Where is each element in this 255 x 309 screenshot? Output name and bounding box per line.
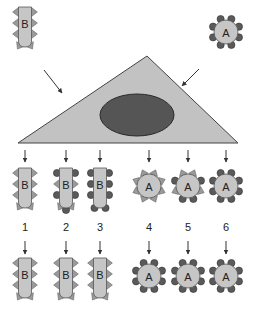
- spike-glycoprotein: [54, 180, 60, 189]
- spike-glycoprotein: [13, 281, 19, 290]
- spike-glycoprotein: [32, 191, 38, 200]
- diagram-canvas: BAB1BB2BB3BA4AA5AA6A: [0, 0, 255, 309]
- phenotypic-mixing-diagram: BAB1BB2BB3BA4AA5AA6A: [0, 0, 255, 309]
- spike-glycoprotein: [88, 259, 94, 268]
- virion-label: A: [145, 181, 153, 193]
- passage-virion-5: A: [171, 259, 204, 292]
- spike-glycoprotein: [54, 259, 60, 268]
- virion-label: A: [222, 181, 230, 193]
- progeny-virion-5: A: [171, 170, 204, 203]
- virion-label: A: [184, 181, 192, 193]
- spike-glycoprotein: [32, 180, 38, 189]
- source-virion-a: A: [209, 15, 242, 48]
- spike-glycoprotein: [73, 180, 79, 189]
- passage-virion-3: B: [88, 258, 113, 300]
- passage-virion-2: B: [54, 258, 79, 300]
- spike-glycoprotein: [13, 19, 19, 28]
- progeny-number-1: 1: [22, 221, 28, 233]
- spike-glycoprotein: [32, 169, 38, 178]
- progeny-number-6: 6: [223, 221, 229, 233]
- virion-label: A: [145, 271, 153, 283]
- spike-glycoprotein: [13, 191, 19, 200]
- spike-glycoprotein: [54, 270, 60, 279]
- progeny-virion-6: A: [209, 169, 242, 202]
- virion-label: A: [184, 271, 192, 283]
- spike-glycoprotein: [32, 259, 38, 268]
- virion-label: B: [21, 179, 28, 191]
- spike-glycoprotein: [32, 19, 38, 28]
- infection-arrow-a: [182, 69, 199, 86]
- host-cell: [18, 56, 238, 143]
- progeny-number-4: 4: [146, 221, 152, 233]
- spike-glycoprotein: [73, 259, 79, 268]
- progeny-virion-4: A: [133, 170, 165, 202]
- virion-label: B: [96, 179, 103, 191]
- spike-glycoprotein: [13, 180, 19, 189]
- spike-glycoprotein: [107, 281, 113, 290]
- infection-arrow-b: [44, 70, 62, 93]
- source-virion-b: B: [13, 7, 38, 49]
- spike-glycoprotein: [13, 8, 19, 17]
- nucleus: [100, 94, 174, 136]
- spike-glycoprotein: [107, 270, 113, 279]
- virion-label: B: [21, 269, 28, 281]
- spike-glycoprotein: [73, 281, 79, 290]
- passage-virion-1: B: [13, 258, 38, 300]
- spike-glycoprotein: [13, 259, 19, 268]
- progeny-number-3: 3: [97, 221, 103, 233]
- virion-label: A: [222, 271, 230, 283]
- spike-glycoprotein: [73, 270, 79, 279]
- spike-glycoprotein: [88, 270, 94, 279]
- progeny-number-2: 2: [63, 221, 69, 233]
- progeny-number-5: 5: [185, 221, 191, 233]
- spike-glycoprotein: [107, 259, 113, 268]
- spike-glycoprotein: [13, 30, 19, 39]
- progeny-virion-2: B: [53, 168, 78, 214]
- spike-glycoprotein: [13, 169, 19, 178]
- spike-glycoprotein: [32, 281, 38, 290]
- spike-glycoprotein: [54, 281, 60, 290]
- virion-label: B: [96, 269, 103, 281]
- progeny-virion-1: B: [13, 168, 38, 210]
- progeny-virion-3: B: [87, 168, 112, 212]
- passage-virion-6: A: [209, 259, 242, 292]
- spike-glycoprotein: [32, 30, 38, 39]
- spike-glycoprotein: [32, 8, 38, 17]
- spike-glycoprotein: [32, 270, 38, 279]
- passage-virion-4: A: [132, 259, 165, 292]
- virion-label: B: [62, 269, 69, 281]
- spike-glycoprotein: [88, 281, 94, 290]
- virion-label: B: [62, 179, 69, 191]
- virion-label: A: [222, 27, 230, 39]
- virion-label: B: [21, 18, 28, 30]
- spike-glycoprotein: [13, 270, 19, 279]
